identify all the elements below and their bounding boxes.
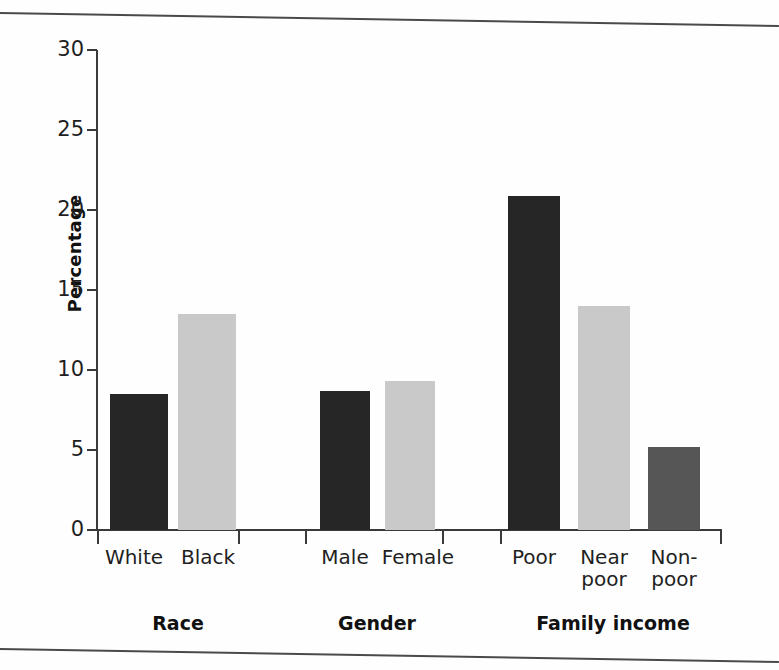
group-label-family-income: Family income <box>518 612 708 634</box>
x-tick-mark-2 <box>305 531 307 544</box>
cat-label-near-poor: Near poor <box>568 546 640 591</box>
group-label-race: Race <box>128 612 228 634</box>
chart-figure: Percentage 302520151050 WhiteBlackMaleFe… <box>0 0 779 670</box>
y-tick-mark-0 <box>87 529 97 531</box>
bar-non-poor <box>648 447 700 530</box>
bar-white <box>110 394 168 530</box>
cat-label-white: White <box>98 546 170 568</box>
x-tick-mark-4 <box>500 531 502 544</box>
cat-label-male: Male <box>310 546 380 568</box>
cat-label-non-poor: Non- poor <box>638 546 710 591</box>
y-tick-mark-5 <box>87 449 97 451</box>
bar-female <box>385 381 435 530</box>
cat-label-female: Female <box>378 546 458 568</box>
y-tick-mark-25 <box>87 129 97 131</box>
y-tick-label-10: 10 <box>44 359 84 380</box>
y-tick-label-0: 0 <box>44 519 84 540</box>
x-tick-mark-0 <box>97 531 99 544</box>
y-tick-mark-30 <box>87 49 97 51</box>
y-tick-label-25: 25 <box>44 119 84 140</box>
y-tick-label-30: 30 <box>44 39 84 60</box>
bar-near-poor <box>578 306 630 530</box>
bar-chart-plot-area: Percentage 302520151050 WhiteBlackMaleFe… <box>0 0 779 670</box>
bar-male <box>320 391 370 530</box>
y-tick-label-5: 5 <box>44 439 84 460</box>
bar-black <box>178 314 236 530</box>
y-tick-label-20: 20 <box>44 199 84 220</box>
y-tick-mark-15 <box>87 289 97 291</box>
x-tick-mark-5 <box>720 531 722 544</box>
y-tick-label-15: 15 <box>44 279 84 300</box>
x-tick-mark-1 <box>238 531 240 544</box>
x-tick-mark-3 <box>442 531 444 544</box>
cat-label-poor: Poor <box>498 546 570 568</box>
y-tick-mark-10 <box>87 369 97 371</box>
y-tick-mark-20 <box>87 209 97 211</box>
bar-poor <box>508 196 560 530</box>
cat-label-black: Black <box>172 546 244 568</box>
group-label-gender: Gender <box>322 612 432 634</box>
